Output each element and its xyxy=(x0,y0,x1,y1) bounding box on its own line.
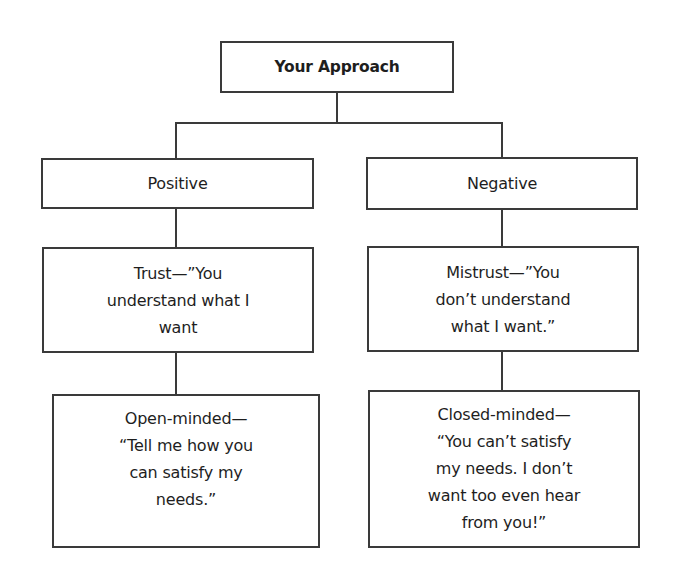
node-positive: Positive xyxy=(41,158,314,209)
node-closed-minded-label: Closed-minded— “You can’t satisfy my nee… xyxy=(428,401,580,536)
node-trust-label: Trust—”You understand what I want xyxy=(107,260,249,341)
connector-mistrust-to-closed-minded xyxy=(501,350,503,391)
connector-bar-to-negative xyxy=(501,122,503,158)
node-closed-minded: Closed-minded— “You can’t satisfy my nee… xyxy=(368,390,640,548)
root-node-label: Your Approach xyxy=(274,54,399,81)
connector-positive-to-trust xyxy=(175,207,177,248)
node-mistrust-label: Mistrust—”You don’t understand what I wa… xyxy=(436,259,571,340)
node-open-minded: Open-minded— “Tell me how you can satisf… xyxy=(52,394,320,548)
connector-horizontal-bar xyxy=(175,122,502,124)
connector-negative-to-mistrust xyxy=(501,208,503,247)
node-positive-label: Positive xyxy=(147,170,207,197)
node-mistrust: Mistrust—”You don’t understand what I wa… xyxy=(367,246,639,352)
connector-bar-to-positive xyxy=(175,122,177,159)
root-node-your-approach: Your Approach xyxy=(220,41,454,93)
connector-root-to-bar xyxy=(336,92,338,124)
node-negative: Negative xyxy=(366,157,638,210)
node-negative-label: Negative xyxy=(467,170,537,197)
node-trust: Trust—”You understand what I want xyxy=(42,247,314,353)
connector-trust-to-open-minded xyxy=(175,351,177,395)
node-open-minded-label: Open-minded— “Tell me how you can satisf… xyxy=(119,405,253,513)
